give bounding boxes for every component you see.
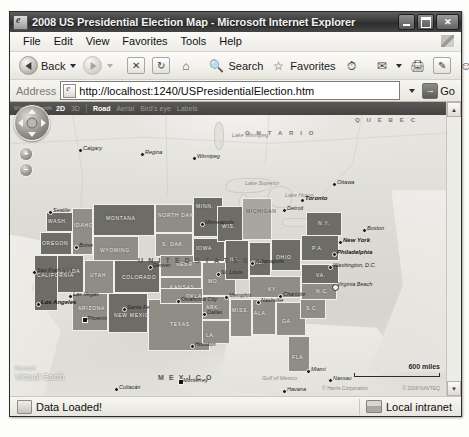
city-label: St. Louis — [221, 269, 242, 275]
stop-icon: ✕ — [127, 57, 145, 74]
mail-icon: ✉ — [374, 58, 391, 74]
history-button[interactable]: ⏱ — [340, 53, 363, 78]
refresh-button[interactable]: ↻ — [149, 53, 173, 78]
window-title: 2008 US Presidential Election Map - Micr… — [32, 16, 355, 28]
pan-down-icon[interactable] — [28, 132, 36, 137]
browser-window: 2008 US Presidential Election Map - Micr… — [9, 11, 462, 417]
pan-center-icon[interactable] — [27, 118, 38, 129]
mail-button[interactable]: ✉ — [371, 53, 405, 78]
pan-left-icon[interactable] — [18, 119, 23, 127]
menu-file[interactable]: File — [17, 34, 48, 49]
city-label: Boston — [367, 225, 384, 231]
history-icon: ⏱ — [343, 58, 360, 74]
address-input[interactable]: http://localhost:1240/USPresidentialElec… — [60, 81, 400, 100]
city-label: Philadelphia — [337, 249, 372, 255]
screenshot-root: 2008 US Presidential Election Map - Micr… — [0, 0, 469, 437]
city-label: Havana — [287, 386, 306, 392]
scroll-up-button[interactable]: ▲ — [447, 102, 461, 117]
city-label: Winnipeg — [197, 153, 220, 159]
city-label: San Francisco — [37, 267, 72, 273]
minimize-button[interactable] — [398, 14, 415, 30]
title-bar: 2008 US Presidential Election Map - Micr… — [10, 12, 461, 32]
address-url-text: http://localhost:1240/USPresidentialElec… — [79, 85, 314, 97]
address-bar: Address http://localhost:1240/USPresiden… — [10, 80, 461, 102]
chevron-down-icon — [409, 89, 415, 93]
security-zone-pane[interactable]: Local intranet — [359, 399, 458, 415]
go-arrow-icon: → — [422, 83, 438, 99]
zoom-in-button[interactable]: + — [19, 147, 33, 161]
city-label: Boise — [79, 242, 93, 248]
close-button[interactable]: ✕ — [436, 14, 459, 30]
virtual-earth-logo: Microsoft Virtual Earth — [15, 366, 64, 382]
search-label: Search — [228, 60, 263, 72]
map-labels-layer: U N I T E D S T A T E SM E X I C OO N T … — [10, 102, 446, 396]
city-label: Houston — [195, 341, 216, 347]
city-label: New York — [343, 237, 370, 243]
messenger-button[interactable]: ☺ — [455, 53, 469, 78]
menu-edit[interactable]: Edit — [48, 34, 80, 49]
water-label: Lake Superior — [245, 180, 279, 186]
back-button[interactable]: Back — [16, 53, 79, 78]
address-dropdown-button[interactable] — [404, 89, 417, 93]
scale-label: 600 miles — [408, 363, 440, 370]
city-label: Detroit — [287, 205, 303, 211]
city-label: Washington, D.C. — [333, 262, 376, 268]
city-label: Nassau — [333, 375, 352, 381]
map-3d-button[interactable]: 3D — [71, 105, 80, 112]
ie-logo-icon — [13, 15, 28, 30]
menu-view[interactable]: View — [80, 34, 117, 49]
forward-dropdown-icon[interactable] — [107, 64, 113, 68]
city-label: Ottawa — [337, 179, 354, 185]
scroll-down-button[interactable]: ▼ — [447, 381, 461, 396]
virtual-earth-map[interactable]: WASH.OREGONIDAHOMONTANANORTH DAKOTAMINN.… — [10, 102, 446, 396]
mail-dropdown-icon[interactable] — [396, 64, 402, 68]
search-button[interactable]: 🔍 Search — [205, 53, 266, 78]
city-label: Minneapolis — [205, 219, 234, 225]
map-scale-bar: 600 miles — [354, 373, 440, 377]
home-button[interactable]: ⌂ — [174, 53, 197, 78]
page-icon — [63, 84, 76, 98]
address-label: Address — [16, 85, 56, 97]
forward-button[interactable] — [80, 53, 116, 78]
city-label: Seattle — [53, 207, 70, 213]
browser-toolbar: Back ✕ ↻ ⌂ 🔍 Search ☆ — [10, 52, 461, 80]
back-dropdown-icon[interactable] — [70, 64, 76, 68]
map-birdseye-button[interactable]: Bird's eye — [140, 105, 171, 112]
page-status-icon — [17, 400, 32, 414]
vertical-scrollbar[interactable]: ▲ ▼ — [446, 102, 461, 396]
pan-control[interactable] — [14, 105, 50, 141]
menu-favorites[interactable]: Favorites — [116, 34, 174, 49]
city-label: Santa Fe — [127, 304, 149, 310]
menu-help[interactable]: Help — [213, 34, 249, 49]
search-icon: 🔍 — [208, 58, 225, 74]
city-label: Virginia Beach — [337, 281, 372, 287]
back-label: Back — [41, 60, 65, 72]
pan-up-icon[interactable] — [28, 109, 36, 114]
status-message: Data Loaded! — [36, 401, 102, 413]
figure-caption — [18, 424, 448, 437]
map-aerial-button[interactable]: Aerial — [116, 105, 134, 112]
map-2d-button[interactable]: 2D — [56, 105, 65, 112]
print-button[interactable]: 🖨 — [406, 53, 429, 78]
favorites-button[interactable]: ☆ Favorites — [267, 53, 338, 78]
map-road-button[interactable]: Road — [93, 105, 111, 112]
city-label: Indianapolis — [255, 258, 284, 264]
city-label: Toronto — [305, 195, 327, 201]
city-label: Denver — [153, 262, 171, 268]
city-label: Los Angeles — [41, 299, 76, 305]
map-labels-button[interactable]: Labels — [177, 105, 198, 112]
zoom-out-button[interactable]: − — [19, 163, 33, 177]
menu-tools[interactable]: Tools — [175, 34, 214, 49]
edit-button[interactable]: ✎ — [430, 53, 454, 78]
go-button[interactable]: → Go — [421, 82, 459, 100]
security-zone-label: Local intranet — [386, 401, 452, 413]
control-divider — [86, 104, 87, 113]
city-label: Memphis — [229, 292, 251, 298]
messenger-icon: ☺ — [458, 58, 469, 74]
pan-right-icon[interactable] — [41, 119, 46, 127]
city-label: Calgary — [83, 145, 102, 151]
stop-button[interactable]: ✕ — [124, 53, 148, 78]
maximize-button[interactable] — [417, 14, 434, 30]
city-label: Charlotte — [283, 291, 305, 297]
back-arrow-icon — [19, 56, 38, 75]
